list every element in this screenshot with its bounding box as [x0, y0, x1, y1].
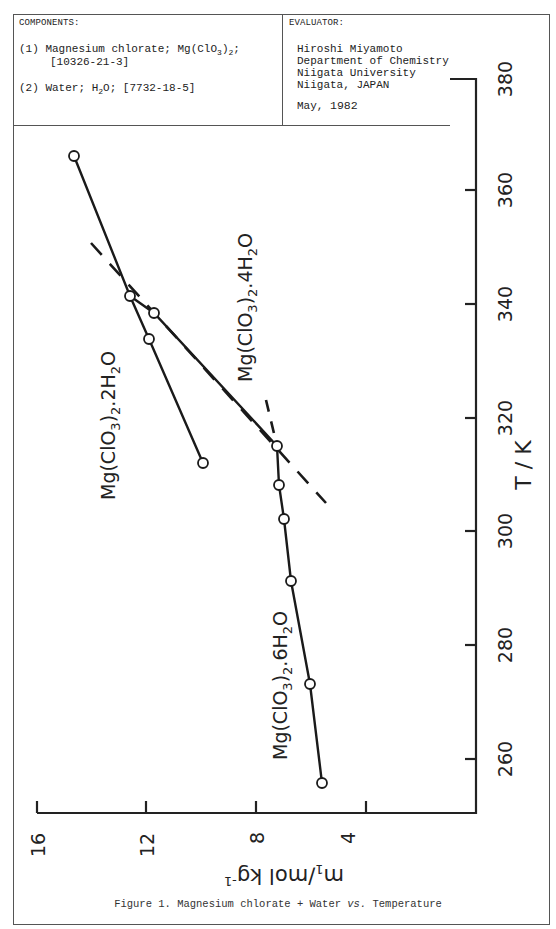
x-tick-4: 4 [337, 832, 359, 844]
svg-text:m1/mol kg-1: m1/mol kg-1 [224, 862, 344, 889]
data-point [317, 778, 327, 788]
caption-vs: vs. [347, 898, 366, 910]
y-tick-labels: 380 360 340 320 300 280 260 T / K [494, 61, 536, 777]
series-labels: Mg(ClO3)2.2H2O Mg(ClO3)2.4H2O Mg(ClO3)2.… [97, 233, 295, 760]
data-point [125, 291, 135, 301]
data-point [286, 576, 296, 586]
y-tick-300: 300 [494, 513, 516, 549]
x-axis-label: m1/mol kg-1 [224, 862, 344, 889]
y-tick-280: 280 [494, 627, 516, 663]
label-4h2o: Mg(ClO3)2.4H2O [234, 233, 260, 382]
y-axis-label: T / K [511, 440, 536, 491]
x-tick-8: 8 [246, 832, 268, 844]
data-point [272, 441, 282, 451]
x-tick-labels: 16 12 8 4 [27, 832, 359, 857]
caption-text: Figure 1. Magnesium chlorate + Water [114, 898, 347, 910]
series-2h2o-line [74, 156, 203, 463]
phase-diagram: 380 360 340 320 300 280 260 T / K 16 12 … [0, 0, 556, 929]
caption-text-end: Temperature [366, 898, 442, 910]
y-tick-340: 340 [494, 286, 516, 322]
x-label-m: m [324, 864, 344, 888]
figure-caption: Figure 1. Magnesium chlorate + Water vs.… [0, 898, 556, 910]
data-point [279, 514, 289, 524]
y-tick-320: 320 [494, 400, 516, 436]
data-point [149, 308, 159, 318]
y-tick-380: 380 [494, 61, 516, 97]
data-point [144, 334, 154, 344]
x-label-sup: -1 [224, 874, 237, 889]
data-point [198, 458, 208, 468]
label-2h2o: Mg(ClO3)2.2H2O [97, 351, 123, 500]
data-point [274, 480, 284, 490]
x-tick-12: 12 [136, 833, 158, 857]
y-tick-260: 260 [494, 741, 516, 777]
y-tick-360: 360 [494, 172, 516, 208]
data-point [305, 679, 315, 689]
x-tick-16: 16 [27, 833, 49, 857]
x-label-sub: 1 [315, 862, 323, 877]
data-point [69, 151, 79, 161]
x-label-units: /mol kg [237, 864, 315, 888]
label-6h2o: Mg(ClO3)2.6H2O [269, 611, 295, 760]
